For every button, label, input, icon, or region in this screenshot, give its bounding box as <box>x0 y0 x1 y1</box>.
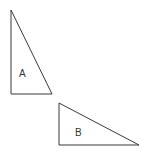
triangle-b-label: B <box>75 127 82 138</box>
triangle-a-label: A <box>19 68 26 79</box>
triangle-a-shape <box>11 10 52 94</box>
triangle-b-shape <box>59 103 139 145</box>
triangle-b: B <box>59 103 139 145</box>
triangle-diagram: A B <box>0 0 145 153</box>
triangle-a: A <box>11 10 52 94</box>
